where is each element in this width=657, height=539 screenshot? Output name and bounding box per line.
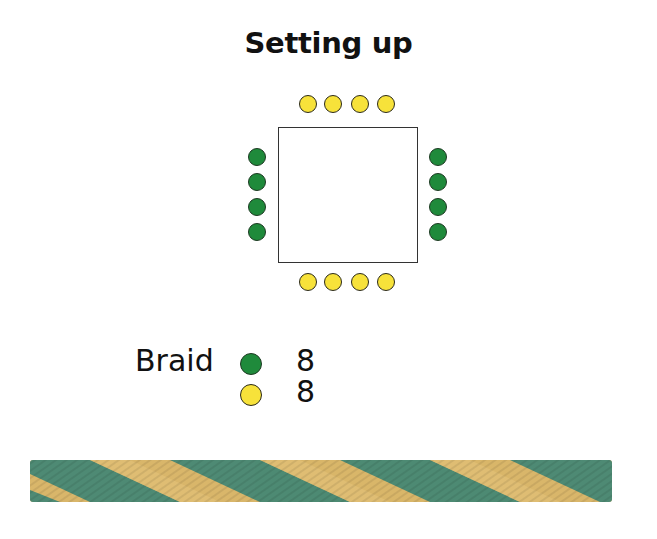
legend-yellow-swatch — [240, 384, 262, 406]
bottom-bobbin-yellow — [299, 273, 317, 291]
bottom-bobbin-yellow — [377, 273, 395, 291]
page-title: Setting up — [0, 26, 657, 60]
bottom-bobbin-yellow — [324, 273, 342, 291]
left-bobbin-green — [248, 198, 266, 216]
right-bobbin-green — [429, 223, 447, 241]
legend-green-swatch — [240, 353, 262, 375]
braiding-disk — [278, 127, 418, 263]
legend-yellow-count: 8 — [296, 374, 315, 409]
top-bobbin-yellow — [324, 95, 342, 113]
left-bobbin-green — [248, 148, 266, 166]
left-bobbin-green — [248, 173, 266, 191]
right-bobbin-green — [429, 173, 447, 191]
top-bobbin-yellow — [299, 95, 317, 113]
right-bobbin-green — [429, 148, 447, 166]
left-bobbin-green — [248, 223, 266, 241]
right-bobbin-green — [429, 198, 447, 216]
braid-sample-image — [30, 460, 612, 502]
bottom-bobbin-yellow — [351, 273, 369, 291]
top-bobbin-yellow — [351, 95, 369, 113]
top-bobbin-yellow — [377, 95, 395, 113]
legend-green-count: 8 — [296, 343, 315, 378]
legend-label: Braid — [135, 343, 214, 378]
